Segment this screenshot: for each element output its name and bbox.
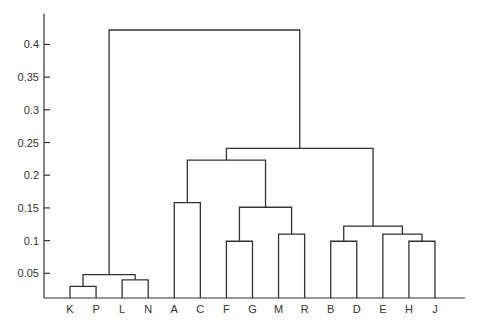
leaf-label: G xyxy=(248,303,257,315)
dendrogram-link xyxy=(409,241,435,298)
dendrogram-link xyxy=(279,234,305,298)
dendrogram-link xyxy=(109,30,300,275)
leaf-label: L xyxy=(119,303,125,315)
dendrogram-link xyxy=(239,207,291,241)
leaf-label: C xyxy=(196,303,204,315)
dendrogram-link xyxy=(226,241,252,298)
y-tick-label: 0.1 xyxy=(24,235,39,247)
y-axis-ticks: 0.050.10.150.20.250.30.350.4 xyxy=(18,38,50,279)
leaf-label: D xyxy=(353,303,361,315)
leaf-label: H xyxy=(405,303,413,315)
y-tick-label: 0.35 xyxy=(18,71,39,83)
y-tick-label: 0.3 xyxy=(24,104,39,116)
leaf-label: P xyxy=(92,303,99,315)
y-tick-label: 0.05 xyxy=(18,267,39,279)
y-tick-label: 0.25 xyxy=(18,137,39,149)
dendrogram-chart: 0.050.10.150.20.250.30.350.4 KPLNACFGMRB… xyxy=(0,0,481,328)
leaf-label: B xyxy=(327,303,334,315)
y-tick-label: 0.4 xyxy=(24,38,39,50)
dendrogram-link xyxy=(331,241,357,298)
leaf-label: R xyxy=(301,303,309,315)
y-tick-label: 0.15 xyxy=(18,202,39,214)
leaf-label: M xyxy=(274,303,283,315)
dendrogram-link xyxy=(174,203,200,298)
leaf-labels: KPLNACFGMRBDEHJ xyxy=(66,303,437,315)
leaf-label: K xyxy=(66,303,74,315)
leaf-label: A xyxy=(171,303,179,315)
leaf-label: F xyxy=(223,303,230,315)
leaf-label: E xyxy=(379,303,386,315)
leaf-label: J xyxy=(432,303,438,315)
dendrogram-links xyxy=(70,30,435,298)
dendrogram-link xyxy=(83,275,135,287)
axes xyxy=(44,14,465,298)
leaf-label: N xyxy=(144,303,152,315)
dendrogram-link xyxy=(122,280,148,298)
y-tick-label: 0.2 xyxy=(24,169,39,181)
dendrogram-svg: 0.050.10.150.20.250.30.350.4 KPLNACFGMRB… xyxy=(0,0,481,328)
dendrogram-link xyxy=(383,234,422,298)
dendrogram-link xyxy=(70,286,96,298)
dendrogram-link xyxy=(187,160,265,207)
